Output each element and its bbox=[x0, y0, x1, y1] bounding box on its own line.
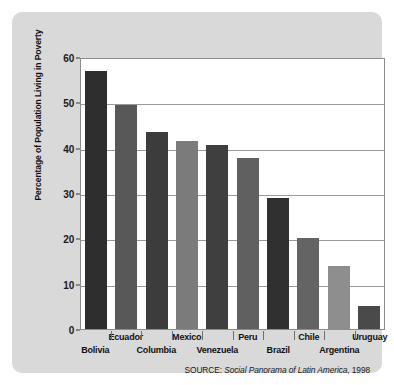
chart-figure: Percentage of Population Living in Pover… bbox=[0, 0, 394, 385]
bar bbox=[297, 238, 319, 329]
bar bbox=[237, 158, 259, 329]
y-tick-label: 60 bbox=[63, 53, 74, 64]
source-year: , 1998 bbox=[347, 365, 370, 375]
chart-panel: Percentage of Population Living in Pover… bbox=[12, 12, 382, 373]
x-tick-mark bbox=[233, 331, 234, 340]
y-axis-title: Percentage of Population Living in Pover… bbox=[33, 15, 43, 215]
x-tick-mark bbox=[324, 331, 325, 340]
x-tick-label: Peru bbox=[238, 332, 257, 342]
source-title: Social Panorama of Latin America bbox=[224, 365, 347, 375]
x-tick-mark bbox=[202, 331, 203, 340]
x-tick-label: Brazil bbox=[267, 345, 290, 355]
bar bbox=[358, 306, 380, 329]
source-prefix: SOURCE: bbox=[185, 365, 222, 375]
bar bbox=[115, 105, 137, 329]
y-axis: 0102030405060 bbox=[52, 52, 80, 336]
x-tick-label: Venezuela bbox=[196, 345, 238, 355]
y-tick-label: 50 bbox=[63, 98, 74, 109]
x-tick-label: Uruguay bbox=[352, 332, 387, 342]
bar bbox=[176, 141, 198, 329]
x-tick-label: Mexico bbox=[172, 332, 201, 342]
y-tick-label: 0 bbox=[69, 325, 74, 336]
x-tick-mark bbox=[111, 331, 112, 340]
source-note: SOURCE: Social Panorama of Latin America… bbox=[12, 365, 382, 375]
x-tick-mark bbox=[141, 331, 142, 340]
bar bbox=[206, 145, 228, 329]
bar bbox=[146, 132, 168, 329]
x-tick-mark bbox=[355, 331, 356, 340]
y-tick-label: 30 bbox=[63, 189, 74, 200]
x-tick-mark bbox=[294, 331, 295, 340]
x-tick-label: Chile bbox=[298, 332, 319, 342]
bar bbox=[328, 266, 350, 329]
y-tick-label: 20 bbox=[63, 234, 74, 245]
bar bbox=[267, 198, 289, 329]
x-tick-label: Bolivia bbox=[81, 345, 109, 355]
y-tick-label: 40 bbox=[63, 143, 74, 154]
x-tick-mark bbox=[172, 331, 173, 340]
x-tick-label: Argentina bbox=[319, 345, 359, 355]
x-axis-labels: BoliviaEcuadorColumbiaMexicoVenezuelaPer… bbox=[80, 331, 385, 365]
bar bbox=[85, 71, 107, 329]
x-tick-label: Columbia bbox=[137, 345, 176, 355]
y-tick-label: 10 bbox=[63, 279, 74, 290]
bar-series bbox=[81, 59, 384, 329]
x-tick-label: Ecuador bbox=[108, 332, 143, 342]
plot-area bbox=[80, 58, 385, 330]
x-tick-mark bbox=[263, 331, 264, 340]
